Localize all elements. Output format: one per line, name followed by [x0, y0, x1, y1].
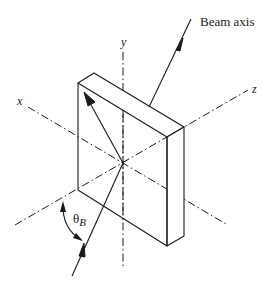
- y-axis-label: y: [121, 35, 126, 50]
- beam-axis-arrow: [149, 19, 191, 107]
- reflected-beam-arrowhead-icon: [84, 92, 95, 106]
- incident-beam-arrowhead-icon: [79, 243, 85, 257]
- brewster-angle-label: θB: [73, 211, 86, 227]
- z-axis-label: z: [252, 82, 257, 97]
- x-axis-line: [28, 107, 226, 224]
- theta-subscript: B: [79, 216, 86, 228]
- plate-top-face: [78, 73, 184, 137]
- plate-side-face: [167, 127, 184, 246]
- brewster-plate-diagram: [0, 0, 272, 292]
- arc-arrowhead-bottom-icon: [73, 233, 83, 241]
- x-axis-label: x: [17, 94, 22, 109]
- axes: [15, 52, 248, 268]
- beam-axis-label: Beam axis: [200, 14, 255, 30]
- crystal-plate: [78, 73, 184, 246]
- beam-axis-arrowhead-icon: [176, 38, 183, 51]
- arc-arrowhead-top-icon: [60, 201, 66, 212]
